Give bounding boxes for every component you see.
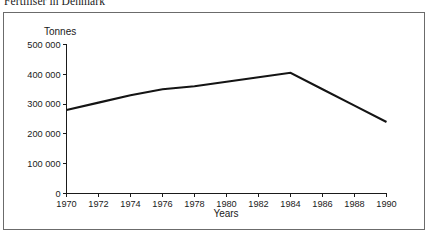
x-tick-label: 1978 [184,199,204,209]
x-tick-label: 1972 [88,199,108,209]
x-tick-label: 1974 [120,199,140,209]
x-axis-ticks: 1970197219741976197819801982198419861988… [56,194,396,209]
figure-caption: Fertiliser in Denmark [4,0,105,7]
y-tick-label: 300 000 [27,99,60,109]
figure-caption-strip: Fertiliser in Denmark [0,0,428,11]
x-tick-label: 1976 [152,199,172,209]
y-tick-label: 200 000 [27,129,60,139]
x-tick-label: 1986 [312,199,332,209]
chart-plot-area: Tonnes 0100 000200 000300 000400 000500 … [4,13,426,231]
x-tick-label: 1988 [344,199,364,209]
x-tick-label: 1982 [248,199,268,209]
y-tick-label: 100 000 [27,159,60,169]
line-chart-svg: Tonnes 0100 000200 000300 000400 000500 … [4,13,426,231]
x-tick-label: 1990 [376,199,396,209]
x-tick-label: 1970 [56,199,76,209]
x-axis-title: Years [213,208,238,219]
figure-frame: Tonnes 0100 000200 000300 000400 000500 … [3,12,425,230]
y-axis-ticks: 0100 000200 000300 000400 000500 000 [27,40,66,199]
y-tick-label: 500 000 [27,40,60,50]
y-axis-title: Tonnes [44,26,76,37]
y-tick-label: 0 [55,189,60,199]
data-series-line [67,73,387,122]
y-tick-label: 400 000 [27,70,60,80]
x-tick-label: 1980 [216,199,236,209]
x-tick-label: 1984 [280,199,300,209]
